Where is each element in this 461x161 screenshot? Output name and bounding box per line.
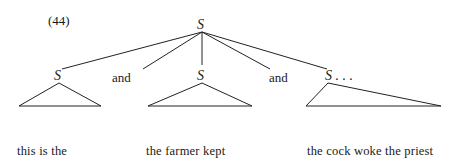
node-s2: S (197, 68, 204, 84)
triangle-s2 (148, 83, 252, 106)
node-s3: S . . . (325, 68, 353, 84)
edge-root-and2 (202, 32, 270, 69)
triangle-s3 (306, 83, 441, 106)
conjunction-and-2: and (269, 70, 288, 86)
leaf-s2-line-1: the farmer kept (146, 143, 247, 159)
leaf-s2: the farmer kept the cock that crowed in … (146, 111, 247, 161)
edge-root-s1 (62, 32, 202, 69)
leaf-s3: the cock woke the priest all shaven and … (307, 111, 433, 161)
triangle-s1 (19, 83, 101, 106)
edge-root-and1 (143, 32, 202, 69)
root-node: S (197, 17, 204, 33)
conjunction-and-1: and (112, 70, 131, 86)
node-s1: S (54, 68, 61, 84)
example-number: (44) (48, 13, 70, 29)
leaf-s3-line-1: the cock woke the priest (307, 143, 433, 159)
leaf-s1-line-1: this is the (17, 143, 92, 159)
edge-root-s3 (202, 32, 327, 69)
leaf-s1: this is the farmer sowing the corn (17, 111, 92, 161)
